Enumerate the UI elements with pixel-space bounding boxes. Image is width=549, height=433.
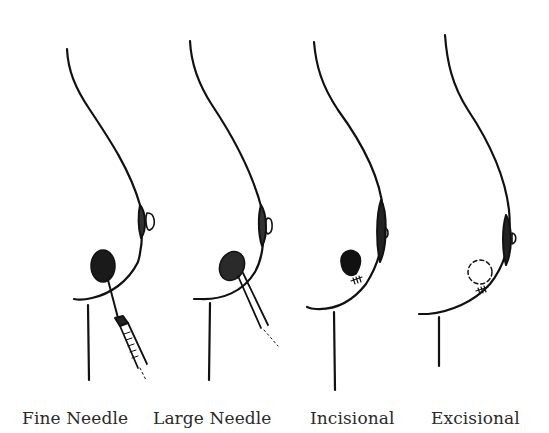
chest-line-1: [88, 305, 89, 380]
areola-1: [139, 205, 145, 238]
lesion-3: [341, 250, 361, 275]
lesion-1: [91, 250, 115, 282]
chest-line-2: [209, 303, 210, 380]
areola-4: [503, 215, 511, 265]
excised-area-outline: [468, 260, 492, 284]
panel-large-needle-figure: [190, 41, 278, 380]
needle-1: [108, 280, 118, 318]
lesion-2: [215, 247, 249, 284]
areola-2: [259, 205, 266, 246]
label-incisional: Incisional: [310, 408, 395, 428]
panel-excisional-figure: [419, 35, 516, 366]
biopsy-diagram: Fine Needle Large Needle Incisional Exci…: [0, 0, 549, 433]
panel-incisional-figure: [307, 42, 388, 390]
label-fine-needle: Fine Needle: [22, 408, 128, 428]
chest-line-3: [334, 312, 335, 390]
nipple-1: [146, 213, 154, 230]
syringe-icon: [115, 316, 147, 380]
label-excisional: Excisional: [431, 408, 520, 428]
breast-outline-4: [419, 35, 510, 314]
nipple-4: [512, 233, 516, 244]
sutures-icon-1: [351, 276, 362, 284]
illustration-canvas: [0, 0, 549, 433]
label-large-needle: Large Needle: [153, 408, 271, 428]
panel-fine-needle-figure: [67, 49, 154, 380]
